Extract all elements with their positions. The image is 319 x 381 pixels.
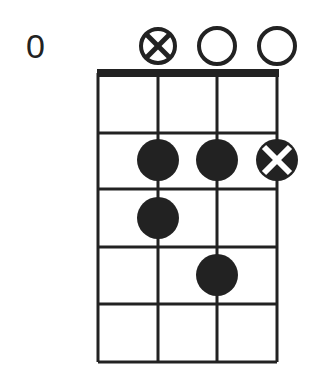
nut bbox=[97, 69, 279, 77]
finger-dot bbox=[137, 197, 179, 239]
x-dot-marker bbox=[256, 139, 298, 181]
open-string-marker bbox=[259, 28, 295, 64]
muted-string-marker bbox=[141, 29, 175, 63]
fretboard bbox=[98, 73, 277, 362]
finger-dot bbox=[196, 139, 238, 181]
finger-dot bbox=[196, 254, 238, 296]
finger-dot bbox=[137, 139, 179, 181]
chord-grid bbox=[0, 0, 319, 381]
open-string-marker bbox=[199, 28, 235, 64]
